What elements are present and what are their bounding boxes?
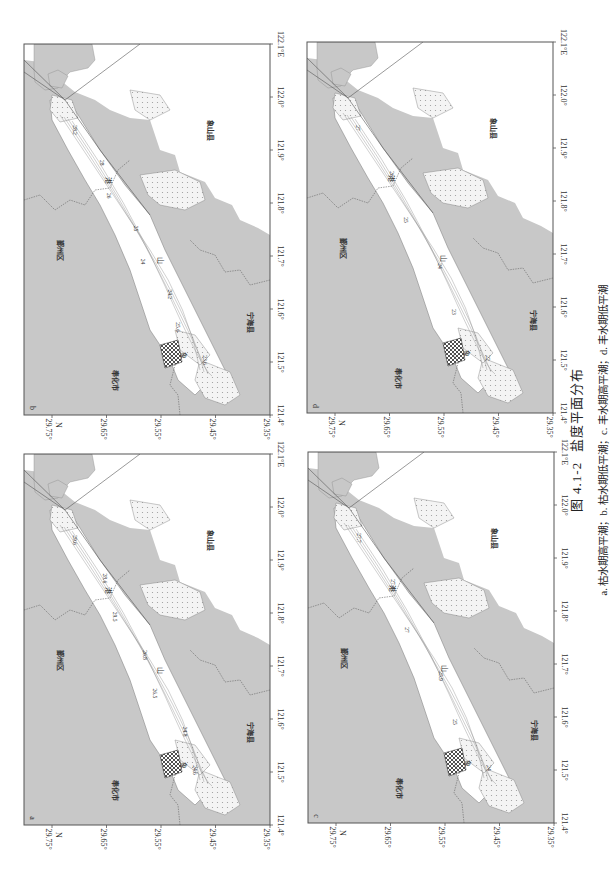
lat-unit-label: N — [338, 830, 347, 836]
place-label-yinzhou: 鄞州区 — [56, 650, 65, 671]
contour-label: 27 — [404, 627, 410, 633]
contour-label: 27 — [355, 125, 361, 131]
contour-label: 22 — [485, 355, 491, 361]
panel-label: a — [28, 816, 37, 820]
lat-tick-label: 29.35° — [546, 826, 555, 847]
figure-caption: 图 4.1-2盐度平面分布 a. 枯水期高平潮；b. 枯水期低平潮；c. 丰水期… — [560, 0, 615, 880]
contour-label: 25 — [403, 217, 409, 223]
lat-tick-label: 29.65° — [99, 828, 108, 849]
lat-tick-label: 29.75° — [44, 828, 53, 849]
place-label-xiangshan: 象山县 — [490, 528, 499, 549]
contour-label: 28.2 — [72, 125, 78, 135]
contour-label: 24 — [486, 765, 492, 771]
lat-tick-label: 29.55° — [437, 826, 446, 847]
place-label-ninghai: 宁海县 — [529, 310, 538, 331]
lat-tick-label: 29.45° — [492, 826, 501, 847]
contour-label: 29.5 — [112, 612, 118, 622]
place-label-fenghua: 奉化市 — [395, 778, 404, 799]
map-panel-a: 29.628.629.526.826.524.824.6鄞州区奉化市象山县宁海县… — [0, 410, 300, 850]
contour-label: 26 — [106, 193, 112, 199]
lat-tick-label: 29.35° — [262, 828, 271, 849]
place-label-shan: 山 — [439, 255, 448, 262]
place-label-yinzhou: 鄞州区 — [339, 238, 348, 259]
place-label-fenghua: 奉化市 — [111, 370, 120, 391]
map-body: 29.628.629.526.826.524.824.6 — [24, 454, 270, 825]
place-label-gang: 港 — [388, 585, 397, 592]
contour-label: 24.2 — [167, 289, 173, 299]
place-label-gang: 港 — [387, 175, 396, 182]
map-panel-b: 28.22826252424.225.623.6鄞州区奉化市象山县宁海县港山象b… — [0, 0, 300, 440]
lat-tick-label: 29.65° — [383, 826, 392, 847]
place-label-ninghai: 宁海县 — [246, 722, 255, 743]
contour-label: 24.6 — [192, 765, 198, 775]
place-label-xiangshan: 象山县 — [206, 120, 215, 141]
map-body: 27.727.42725.92524 — [308, 452, 554, 823]
contour-label: 28.6 — [102, 574, 108, 584]
place-label-xiang: 象 — [179, 762, 188, 769]
map-body: 272625242322 — [307, 42, 553, 413]
map-panel-d: 272625242322鄞州区奉化市象山县宁海县港山象d121.4°121.5°… — [283, 0, 583, 438]
map-svg: 27.727.42725.92524鄞州区奉化市象山县宁海县港山象c121.4°… — [284, 408, 584, 848]
place-label-shan: 山 — [156, 667, 165, 674]
contour-label: 23 — [451, 309, 457, 315]
contour-label: 26.8 — [142, 650, 148, 660]
contour-label: 23.6 — [202, 355, 208, 365]
contour-label: 25 — [133, 226, 139, 232]
contour-label: 27.7 — [356, 533, 362, 543]
place-label-shan: 山 — [440, 665, 449, 672]
figure-title: 图 4.1-2盐度平面分布 — [566, 285, 585, 596]
place-label-yinzhou: 鄞州区 — [56, 240, 65, 261]
place-label-fenghua: 奉化市 — [111, 780, 120, 801]
place-label-xiang: 象 — [463, 760, 472, 767]
contour-label: 26.5 — [152, 689, 158, 699]
map-svg: 272625242322鄞州区奉化市象山县宁海县港山象d121.4°121.5°… — [283, 0, 583, 438]
contour-label: 24 — [140, 259, 146, 265]
place-label-ninghai: 宁海县 — [246, 312, 255, 333]
figure-subtitle: a. 枯水期高平潮；b. 枯水期低平潮；c. 丰水期高平潮；d. 丰水期低平潮 — [595, 285, 610, 596]
place-label-ninghai: 宁海县 — [530, 720, 539, 741]
place-label-shan: 山 — [156, 257, 165, 264]
map-body: 28.22826252424.225.623.6 — [24, 44, 270, 415]
figure-title-text: 盐度平面分布 — [569, 368, 584, 452]
place-label-xiang: 象 — [179, 352, 188, 359]
contour-label: 25.9 — [438, 671, 444, 681]
map-svg: 28.22826252424.225.623.6鄞州区奉化市象山县宁海县港山象b… — [0, 0, 300, 440]
contour-label: 28 — [99, 160, 105, 166]
place-label-gang: 港 — [104, 177, 113, 184]
lat-tick-label: 29.75° — [328, 826, 337, 847]
place-label-gang: 港 — [104, 587, 113, 594]
lat-tick-label: 29.45° — [208, 828, 217, 849]
figure-number: 图 4.1-2 — [569, 462, 584, 512]
place-label-xiang: 象 — [462, 350, 471, 357]
place-label-xiangshan: 象山县 — [206, 530, 215, 551]
contour-label: 29.6 — [72, 535, 78, 545]
map-svg: 29.628.629.526.826.524.824.6鄞州区奉化市象山县宁海县… — [0, 410, 300, 850]
contour-label: 25.6 — [175, 322, 181, 332]
place-label-fenghua: 奉化市 — [394, 368, 403, 389]
place-label-yinzhou: 鄞州区 — [340, 648, 349, 669]
contour-label: 25 — [452, 719, 458, 725]
lat-unit-label: N — [54, 832, 63, 838]
place-label-xiangshan: 象山县 — [489, 118, 498, 139]
contour-label: 24 — [437, 263, 443, 269]
panel-label: c — [312, 814, 321, 818]
contour-label: 24.8 — [182, 727, 188, 737]
lat-tick-label: 29.55° — [153, 828, 162, 849]
map-panel-c: 27.727.42725.92524鄞州区奉化市象山县宁海县港山象c121.4°… — [284, 408, 584, 848]
